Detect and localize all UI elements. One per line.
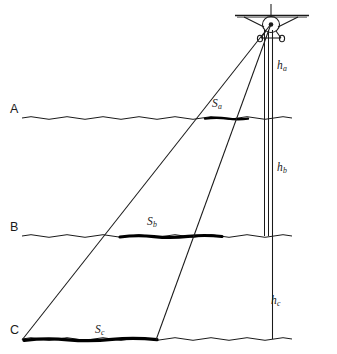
right-ray bbox=[156, 24, 271, 340]
height-label-hc-subscript: c bbox=[277, 299, 280, 308]
airplane-gear-leg-right bbox=[276, 31, 281, 38]
level-label-c: C bbox=[10, 324, 19, 337]
swath-label-sa-base: S bbox=[212, 97, 218, 109]
diagram-canvas bbox=[0, 0, 337, 354]
swath-label-sb-base: S bbox=[147, 215, 153, 227]
swath-label-sc-base: S bbox=[95, 323, 101, 335]
swath-label-sc: Sc bbox=[95, 324, 104, 336]
height-label-hc: hc bbox=[271, 295, 280, 307]
height-label-ha: ha bbox=[277, 60, 287, 72]
airplane-strut-left bbox=[244, 17, 264, 27]
surface-line-a bbox=[22, 117, 292, 120]
height-label-hc-base: h bbox=[271, 294, 277, 306]
height-label-hb: hb bbox=[277, 162, 287, 174]
height-label-hb-base: h bbox=[277, 161, 283, 173]
swath-segments bbox=[24, 118, 248, 341]
swath-segment-c bbox=[24, 338, 157, 340]
swath-segment-a bbox=[205, 118, 248, 120]
aerial-photography-scale-diagram: A B C ha hb hc Sa Sb Sc bbox=[0, 0, 337, 354]
airplane-gear-leg-left bbox=[261, 31, 266, 38]
swath-label-sb: Sb bbox=[147, 216, 157, 228]
left-ray bbox=[22, 24, 271, 340]
swath-segment-b bbox=[120, 236, 222, 238]
surface-lines bbox=[22, 117, 292, 341]
swath-label-sc-subscript: c bbox=[101, 328, 104, 337]
swath-label-sb-subscript: b bbox=[153, 220, 157, 229]
height-label-hb-subscript: b bbox=[283, 166, 287, 175]
height-label-ha-base: h bbox=[277, 59, 283, 71]
airplane-propeller-hub bbox=[269, 22, 274, 27]
swath-label-sa: Sa bbox=[212, 98, 222, 110]
airplane-strut-right bbox=[278, 17, 298, 27]
projection-rays bbox=[22, 24, 271, 340]
level-label-b: B bbox=[10, 221, 18, 234]
height-label-ha-subscript: a bbox=[283, 64, 287, 73]
swath-label-sa-subscript: a bbox=[218, 102, 222, 111]
level-label-a: A bbox=[10, 103, 18, 116]
altitude-reference-lines bbox=[265, 30, 273, 339]
